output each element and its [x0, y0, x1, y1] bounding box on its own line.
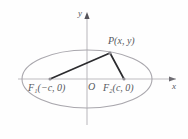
- point-label-f2: F₂(c, 0): [103, 83, 134, 93]
- point-label-f1: F₁(−c, 0): [28, 83, 65, 93]
- x-axis-label: x: [172, 82, 176, 91]
- figure-canvas: [0, 0, 188, 139]
- point-marker-f1: [49, 78, 52, 81]
- origin-label-text: O: [88, 81, 95, 92]
- segment-f1-to-p: [50, 53, 110, 79]
- point-label-f1-text: F₁(−c, 0): [28, 82, 65, 93]
- point-marker-f2: [123, 78, 126, 81]
- y-axis-label-text: y: [78, 8, 82, 18]
- y-axis-arrow-icon: [84, 12, 89, 19]
- point-marker-p: [108, 51, 111, 54]
- x-axis-label-text: x: [172, 81, 176, 91]
- y-axis-label: y: [78, 9, 82, 18]
- segment-f2-to-p: [110, 53, 124, 79]
- point-label-p: P(x, y): [108, 36, 135, 46]
- origin-label: O: [88, 82, 95, 92]
- point-label-f2-text: F₂(c, 0): [103, 82, 134, 93]
- point-label-p-text: P(x, y): [108, 35, 135, 46]
- ellipse-figure: P(x, y) F₁(−c, 0) F₂(c, 0) O x y: [0, 0, 188, 139]
